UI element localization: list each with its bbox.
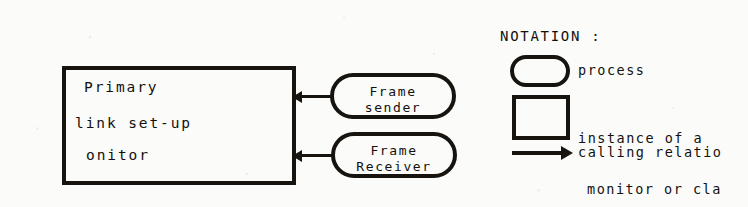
monitor-box-line-2: link set-up [75,116,192,131]
legend-oval-icon [510,55,570,87]
process-oval-frame-receiver: Frame Receiver [331,132,457,178]
calling-arrow-icon-frame-sender-to-monitor [301,95,332,98]
monitor-box-line-3: onitor [86,148,150,163]
monitor-box-line-1: Primary [84,80,158,95]
legend-label-calling-relation: calling relatio [578,144,722,161]
process-oval-frame-sender-line-2: sender [334,100,452,115]
legend-label-process: process [578,62,645,79]
notation-title: NOTATION : [500,28,601,44]
calling-arrow-icon-frame-receiver-to-monitor [301,154,332,157]
process-oval-frame-sender-line-1: Frame [334,84,452,99]
legend-right-arrow-icon [512,151,562,155]
process-oval-frame-sender: Frame sender [330,73,456,119]
process-oval-frame-receiver-line-2: Receiver [335,159,453,174]
diagram-canvas: Primary link set-up onitor Frame sender … [0,0,748,207]
legend-rectangle-icon [512,95,570,140]
legend-label-instance-line-2: monitor or cla [578,181,722,198]
process-oval-frame-receiver-line-1: Frame [335,143,453,158]
